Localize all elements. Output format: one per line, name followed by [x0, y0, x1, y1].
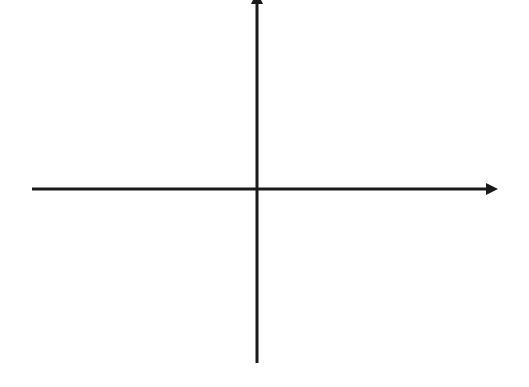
y-axis-arrowhead-icon [251, 0, 263, 4]
x-axis-arrowhead-icon [486, 183, 498, 195]
coordinate-axes-diagram [0, 0, 529, 387]
